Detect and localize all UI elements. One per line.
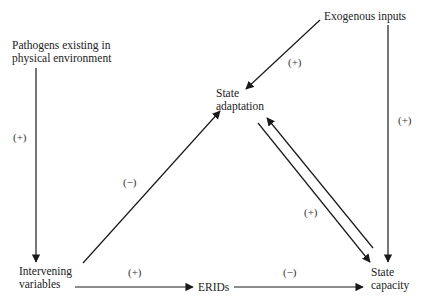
edge-adaptation-to-capacity xyxy=(258,123,370,262)
node-pathogens: Pathogens existing in physical environme… xyxy=(12,39,111,65)
node-erids: ERIDs xyxy=(198,281,229,294)
node-intervening-variables: Intervening variables xyxy=(19,265,72,291)
node-exogenous-line1: Exogenous inputs xyxy=(324,10,406,23)
sign-adaptation-to-capacity: (+) xyxy=(304,206,318,218)
node-state-capacity-line2: capacity xyxy=(371,279,409,292)
edge-intervening-to-adaptation xyxy=(83,111,220,263)
sign-erids-to-capacity: (−) xyxy=(283,266,297,278)
sign-exogenous-to-capacity: (+) xyxy=(398,114,412,126)
node-intervening-line2: variables xyxy=(19,278,72,291)
node-pathogens-line1: Pathogens existing in xyxy=(12,39,111,52)
node-exogenous-inputs: Exogenous inputs xyxy=(324,10,406,23)
node-pathogens-line2: physical environment xyxy=(12,52,111,65)
node-state-adaptation-line2: adaptation xyxy=(216,100,264,113)
sign-pathogens-to-intervening: (+) xyxy=(13,131,27,143)
node-state-adaptation: State adaptation xyxy=(216,87,264,113)
edge-exogenous-to-adaptation xyxy=(246,20,320,89)
sign-exogenous-to-adaptation: (+) xyxy=(288,56,302,68)
edge-capacity-to-adaptation xyxy=(267,118,373,248)
node-state-adaptation-line1: State xyxy=(216,87,264,100)
sign-intervening-to-erids: (+) xyxy=(128,266,142,278)
sign-intervening-to-adaptation: (−) xyxy=(123,176,137,188)
node-state-capacity-line1: State xyxy=(371,266,409,279)
node-intervening-line1: Intervening xyxy=(19,265,72,278)
node-erids-line1: ERIDs xyxy=(198,281,229,294)
node-state-capacity: State capacity xyxy=(371,266,409,292)
